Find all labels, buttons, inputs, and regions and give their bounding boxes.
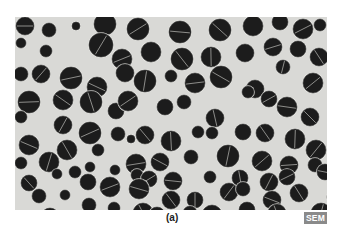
cell: [208, 18, 232, 42]
cell: [78, 121, 102, 145]
cell: [31, 188, 47, 204]
cell: [135, 125, 155, 145]
cell: [164, 69, 178, 83]
cell: [156, 98, 174, 116]
cell: [263, 37, 283, 57]
cell: [15, 66, 29, 82]
cell: [18, 134, 40, 156]
cell: [53, 115, 73, 135]
cell: [168, 20, 192, 44]
cell: [71, 21, 81, 31]
cell: [52, 89, 74, 111]
cell: [68, 165, 82, 179]
cell: [235, 43, 255, 63]
micrograph-image: [15, 17, 327, 210]
cell: [39, 44, 53, 58]
cell: [109, 164, 121, 176]
cell: [128, 178, 150, 200]
cell: [255, 123, 275, 143]
cell: [40, 207, 60, 210]
cell: [176, 94, 192, 110]
cell: [238, 201, 256, 210]
cell: [117, 90, 139, 112]
cell: [84, 161, 96, 173]
cell: [310, 202, 327, 210]
cell: [300, 107, 320, 127]
cell: [79, 90, 103, 114]
cell: [107, 201, 121, 210]
division-septum: [295, 130, 296, 148]
cell: [15, 156, 28, 170]
cell: [205, 108, 225, 128]
cell: [302, 72, 324, 94]
cell: [110, 126, 126, 142]
cell: [209, 65, 233, 89]
cell: [183, 149, 199, 165]
cell: [99, 176, 121, 198]
cell: [278, 168, 296, 186]
cell: [132, 202, 154, 210]
cell: [241, 85, 255, 99]
cell: [191, 125, 205, 139]
cell: [126, 134, 136, 144]
cell: [326, 190, 327, 204]
cell: [88, 32, 114, 58]
cell: [200, 46, 222, 68]
cell: [289, 40, 307, 58]
cell: [15, 17, 35, 36]
cell: [201, 204, 223, 210]
cell: [184, 72, 206, 94]
cell: [160, 130, 182, 152]
cell: [140, 41, 162, 63]
cell: [150, 152, 170, 172]
cell: [234, 123, 252, 141]
cell: [251, 150, 273, 172]
cell: [161, 190, 181, 210]
cell: [203, 170, 217, 184]
panel-label: (a): [166, 212, 178, 223]
cell: [59, 189, 71, 201]
cell: [126, 17, 150, 41]
cell: [242, 17, 264, 37]
cell: [275, 59, 291, 75]
cell: [216, 144, 240, 168]
cell: [259, 172, 279, 192]
cell: [163, 171, 183, 191]
cell: [260, 90, 278, 108]
cell: [81, 197, 97, 210]
cell: [205, 126, 219, 140]
cell: [276, 96, 298, 118]
cell: [15, 37, 27, 49]
cell: [133, 69, 157, 93]
sem-badge: SEM: [304, 212, 327, 224]
cell: [313, 18, 327, 32]
cell: [20, 174, 38, 192]
cell: [79, 173, 97, 191]
cell: [91, 143, 105, 157]
cell: [56, 139, 78, 161]
cell: [51, 168, 63, 180]
cell-field: [15, 17, 327, 210]
cell: [292, 18, 314, 40]
cell: [115, 63, 135, 83]
cell: [271, 17, 289, 31]
cell: [170, 47, 194, 71]
cell: [289, 183, 309, 203]
cell: [235, 181, 251, 197]
cell: [309, 47, 327, 67]
cell: [31, 64, 51, 84]
cell: [59, 66, 83, 90]
cell: [284, 128, 306, 150]
cell: [41, 22, 57, 38]
